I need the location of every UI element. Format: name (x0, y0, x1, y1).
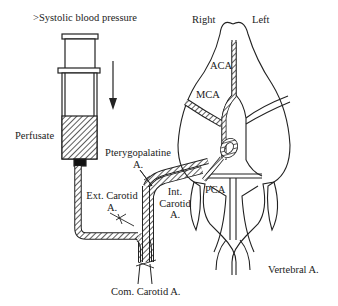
int-carotid-line1: Int. (155, 186, 195, 198)
ext-carotid-line2: A. (82, 202, 142, 214)
left-label: Left (252, 14, 270, 26)
pterygopalatine-line2: A. (103, 159, 173, 171)
vertebral-label: Vertebral A. (268, 264, 319, 276)
syringe (58, 34, 100, 166)
perfusate-label: Perfusate (15, 130, 54, 142)
aca-label: ACA (210, 60, 232, 72)
syringe-tip (74, 159, 86, 166)
plunger-rod (65, 39, 95, 69)
pterygopalatine-label: Pterygopalatine A. (103, 147, 173, 170)
pca-label: PCA (205, 184, 225, 196)
down-arrow-icon (109, 61, 117, 110)
mca-label: MCA (196, 89, 220, 101)
plunger-cap (62, 34, 98, 39)
pressure-label: >Systolic blood pressure (33, 12, 137, 24)
ext-carotid-label: Ext. Carotid A. (82, 190, 142, 213)
perfusate-fill (62, 116, 97, 159)
barrel-flange (58, 68, 100, 73)
com-carotid-label: Com. Carotid A. (111, 286, 180, 298)
int-carotid-line2: Carotid (155, 198, 195, 210)
right-label: Right (192, 14, 215, 26)
ext-carotid-line1: Ext. Carotid (82, 190, 142, 202)
int-carotid-label: Int. Carotid A. (155, 186, 195, 221)
pterygopalatine-line1: Pterygopalatine (103, 147, 173, 159)
int-carotid-line3: A. (155, 209, 195, 221)
